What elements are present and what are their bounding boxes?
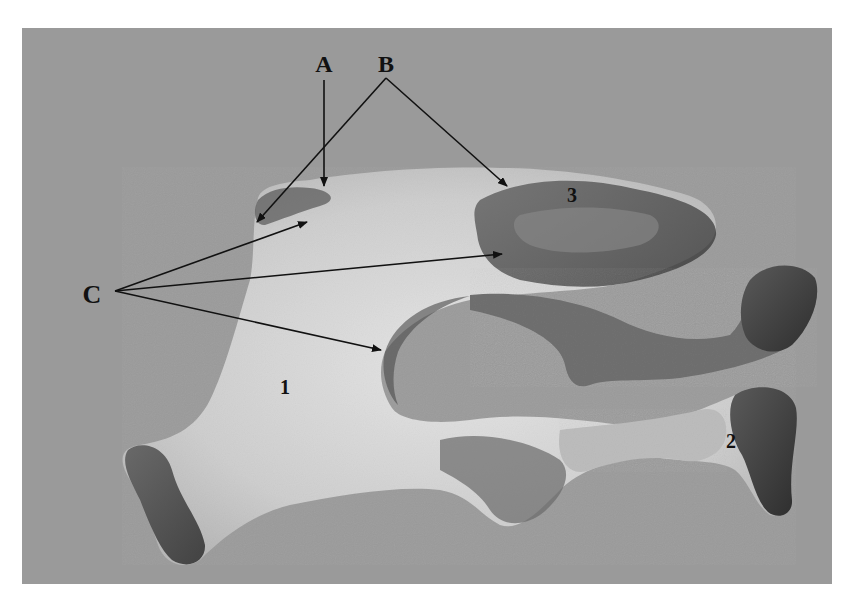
specimen-illustration: A B C 1 2 3 (0, 0, 854, 606)
label-C: C (83, 280, 102, 309)
label-3: 3 (567, 184, 577, 206)
bone-specimen (123, 168, 818, 565)
label-B: B (378, 51, 394, 77)
lower-process-knob (730, 387, 797, 515)
upper-process-knob (741, 265, 817, 351)
specimen-figure: A B C 1 2 3 (0, 0, 854, 606)
label-A: A (315, 51, 333, 77)
label-2: 2 (726, 430, 736, 452)
label-1: 1 (280, 376, 290, 398)
lower-process-mid (559, 409, 726, 472)
